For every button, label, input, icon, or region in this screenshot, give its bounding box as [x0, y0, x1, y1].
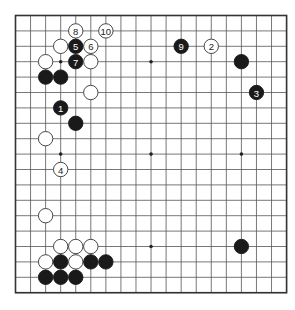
black-stone [38, 70, 52, 84]
white-stone [38, 55, 52, 69]
black-stone: 1 [53, 101, 67, 115]
white-stone [38, 255, 52, 269]
black-stone [234, 55, 248, 69]
move-number-label: 4 [58, 165, 63, 176]
white-stone [53, 39, 67, 53]
move-number-label: 7 [73, 57, 78, 68]
black-stone: 7 [69, 55, 83, 69]
go-board[interactable]: 12345678910 [0, 0, 295, 310]
white-stone: 6 [84, 39, 98, 53]
white-stone: 10 [99, 24, 113, 38]
white-stone-disc [84, 85, 98, 99]
black-stone-disc [234, 239, 248, 253]
black-stone [53, 70, 67, 84]
black-stone: 5 [69, 39, 83, 53]
black-stone: 9 [174, 39, 188, 53]
white-stone-disc [84, 55, 98, 69]
black-stone [84, 255, 98, 269]
white-stone [84, 55, 98, 69]
white-stone-disc [69, 239, 83, 253]
white-stone [69, 239, 83, 253]
move-number-label: 5 [73, 41, 78, 52]
star-point [59, 152, 63, 156]
white-stone-disc [38, 255, 52, 269]
white-stone: 8 [69, 24, 83, 38]
white-stone-disc [38, 209, 52, 223]
white-stone [53, 239, 67, 253]
black-stone [53, 270, 67, 284]
star-point [149, 152, 153, 156]
black-stone [38, 270, 52, 284]
black-stone-disc [38, 70, 52, 84]
black-stone-disc [99, 255, 113, 269]
black-stone-disc [234, 55, 248, 69]
white-stone-disc [38, 55, 52, 69]
move-number-label: 2 [209, 41, 214, 52]
white-stone [69, 255, 83, 269]
black-stone-disc [53, 270, 67, 284]
move-number-label: 8 [73, 26, 78, 37]
move-number-label: 9 [179, 41, 184, 52]
move-number-label: 3 [254, 88, 259, 99]
black-stone-disc [69, 270, 83, 284]
white-stone: 4 [53, 162, 67, 176]
star-point [59, 60, 63, 64]
white-stone [84, 239, 98, 253]
white-stone [38, 132, 52, 146]
black-stone [99, 255, 113, 269]
white-stone-disc [69, 255, 83, 269]
move-number-label: 6 [88, 41, 93, 52]
black-stone [53, 255, 67, 269]
black-stone-disc [84, 255, 98, 269]
white-stone-disc [38, 132, 52, 146]
white-stone-disc [53, 39, 67, 53]
white-stone: 2 [204, 39, 218, 53]
black-stone [69, 270, 83, 284]
black-stone [69, 116, 83, 130]
black-stone: 3 [249, 85, 263, 99]
move-number-label: 1 [58, 103, 63, 114]
star-point [149, 60, 153, 64]
black-stone-disc [53, 255, 67, 269]
move-number-label: 10 [101, 26, 112, 37]
star-point [149, 245, 153, 249]
black-stone-disc [53, 70, 67, 84]
white-stone-disc [84, 239, 98, 253]
star-point [240, 152, 244, 156]
white-stone-disc [53, 239, 67, 253]
white-stone [38, 209, 52, 223]
black-stone [234, 239, 248, 253]
black-stone-disc [69, 116, 83, 130]
white-stone [84, 85, 98, 99]
black-stone-disc [38, 270, 52, 284]
